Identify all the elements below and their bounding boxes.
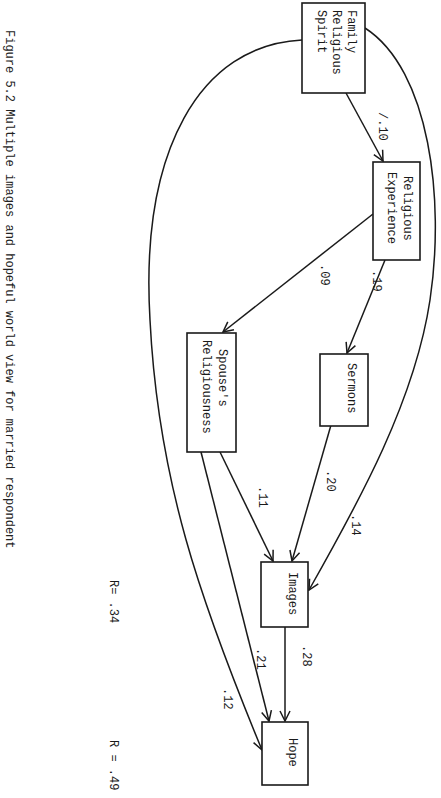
r-value-images: R= .34 bbox=[106, 580, 120, 623]
figure-caption: Figure 5.2 Multiple images and hopeful w… bbox=[2, 30, 16, 548]
edge-family-to-images bbox=[309, 28, 435, 590]
coef-experience-spouse: .09 bbox=[317, 264, 331, 286]
edge-sermons-to-images bbox=[292, 425, 331, 561]
node-hope: Hope bbox=[262, 722, 308, 785]
node-label-line: Sermons bbox=[344, 363, 358, 413]
node-label-line: Experience bbox=[384, 172, 398, 244]
node-label-line: Family bbox=[344, 10, 358, 53]
node-images: Images bbox=[261, 562, 308, 627]
node-label-line: Spirit bbox=[314, 10, 328, 53]
node-label-line: Images bbox=[285, 572, 299, 615]
edge-experience-to-spouse bbox=[223, 214, 373, 332]
coef-family-images: .14 bbox=[348, 514, 362, 536]
coef-sermons-images: .20 bbox=[323, 470, 337, 492]
node-label-line: Spouse's bbox=[215, 349, 229, 407]
node-religious-experience: Religious Experience bbox=[373, 162, 420, 260]
path-diagram: Figure 5.2 Multiple images and hopeful w… bbox=[0, 0, 441, 798]
coef-spouse-hope: .21 bbox=[253, 648, 267, 670]
node-spouses-religiousness: Spouse's Religiousness bbox=[187, 333, 236, 452]
node-label-line: Religiousness bbox=[199, 340, 213, 434]
coef-family-hope: .12 bbox=[220, 688, 234, 710]
node-label-line: Religious bbox=[400, 176, 414, 241]
coef-experience-sermons: .19 bbox=[369, 270, 383, 292]
node-family-religious-spirit: Family Religious Spirit bbox=[302, 3, 365, 93]
coef-images-hope: .28 bbox=[299, 645, 313, 667]
node-label-line: Religious bbox=[329, 10, 343, 75]
node-sermons: Sermons bbox=[320, 354, 368, 426]
coef-family-experience: /.10 bbox=[375, 112, 389, 141]
r-value-hope: R = .49 bbox=[106, 740, 120, 790]
node-label-line: Hope bbox=[285, 738, 299, 767]
coef-spouse-images: .11 bbox=[255, 486, 269, 508]
